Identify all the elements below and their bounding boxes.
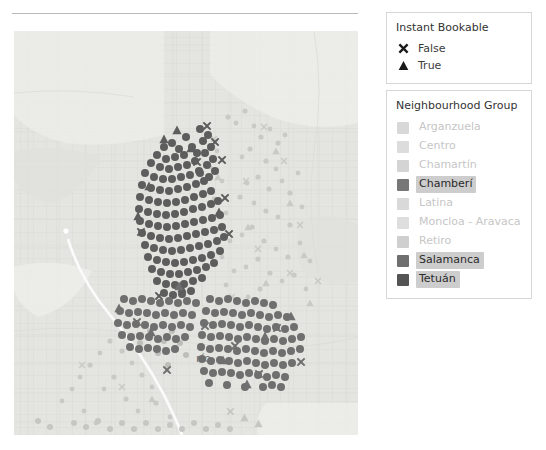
legend-item-moncloa-aravaca[interactable]: Moncloa - Aravaca [396,213,522,232]
color-swatch-retiro [397,236,409,248]
legend-item-true[interactable]: True [396,57,522,74]
legend-item-arganzuela[interactable]: Arganzuela [396,118,522,137]
triangle-marker-icon [397,59,410,72]
legend-label-arganzuela: Arganzuela [416,119,485,136]
x-cross-marker-icon [397,42,410,55]
legend-label-retiro: Retiro [416,233,455,250]
legend-label-chamberi: Chamberí [416,176,476,193]
color-swatch-tetuan [397,274,409,286]
legend-label-false: False [418,42,446,55]
legend-item-tetuan[interactable]: Tetuán [396,270,522,289]
neighbourhood-group-legend-title: Neighbourhood Group [396,98,522,113]
legend-column: Instant Bookable False True Neighbourhoo… [386,12,532,299]
instant-bookable-legend: Instant Bookable False True [386,12,532,84]
color-swatch-salamanca [397,255,409,267]
legend-item-salamanca[interactable]: Salamanca [396,251,522,270]
legend-item-chamberi[interactable]: Chamberí [396,175,522,194]
legend-label-centro: Centro [416,138,460,155]
legend-item-latina[interactable]: Latina [396,194,522,213]
map-panel[interactable]: río [14,31,358,435]
legend-item-chamartin[interactable]: Chamartín [396,156,522,175]
color-swatch-moncloa-aravaca [397,217,409,229]
legend-label-true: True [418,59,441,72]
top-divider [12,13,358,14]
color-swatch-centro [397,141,409,153]
legend-label-latina: Latina [416,195,457,212]
legend-label-tetuan: Tetuán [416,271,460,288]
color-swatch-chamartin [397,160,409,172]
legend-label-moncloa-aravaca: Moncloa - Aravaca [416,214,525,231]
color-swatch-arganzuela [397,122,409,134]
legend-item-retiro[interactable]: Retiro [396,232,522,251]
color-swatch-chamberi [397,179,409,191]
legend-label-chamartin: Chamartín [416,157,481,174]
legend-label-salamanca: Salamanca [416,252,484,269]
instant-bookable-legend-title: Instant Bookable [396,20,522,35]
neighbourhood-group-legend: Neighbourhood Group Arganzuela Centro Ch… [386,90,532,299]
map-canvas[interactable] [14,31,358,435]
color-swatch-latina [397,198,409,210]
legend-item-false[interactable]: False [396,40,522,57]
legend-item-centro[interactable]: Centro [396,137,522,156]
